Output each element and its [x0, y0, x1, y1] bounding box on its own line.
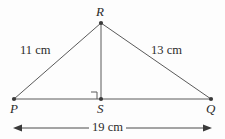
- vertex-label-p: P: [10, 102, 18, 115]
- right-angle-mark-icon: [91, 92, 97, 99]
- vertex-label-s: S: [97, 102, 104, 115]
- measurement-label-pr: 11 cm: [20, 44, 50, 57]
- dimension-arrow-left-icon: [13, 125, 22, 132]
- measurement-label-pq: 19 cm: [89, 121, 126, 134]
- measurement-label-rq: 13 cm: [151, 44, 182, 57]
- dimension-arrow-right-icon: [203, 125, 212, 132]
- triangle-figure: [0, 0, 225, 139]
- vertex-dot-r: [99, 21, 103, 25]
- segment-pr: [14, 23, 101, 99]
- segment-rq: [101, 23, 211, 99]
- geometry-diagram: R P S Q 11 cm 13 cm 19 cm: [0, 0, 225, 139]
- vertex-label-r: R: [96, 5, 104, 18]
- vertex-label-q: Q: [206, 102, 215, 115]
